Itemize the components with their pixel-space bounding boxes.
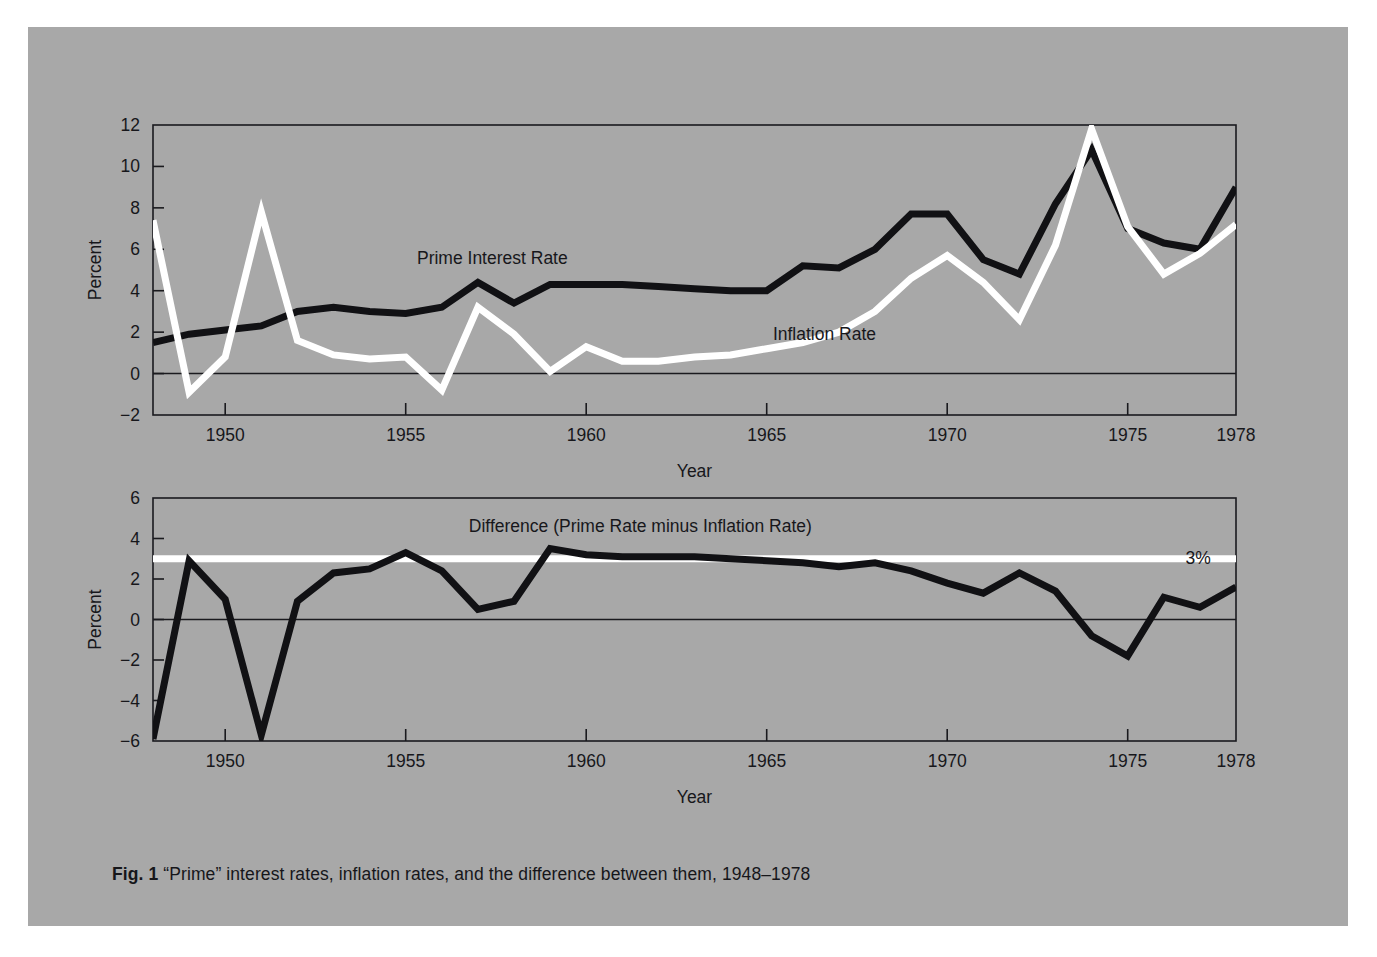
- figure-caption: Fig. 1 “Prime” interest rates, inflation…: [112, 864, 1262, 885]
- series-line-2: [153, 129, 1236, 392]
- y-axis-tick-label: 10: [121, 156, 141, 176]
- x-axis-tick-label: 1965: [747, 425, 786, 445]
- series-group: [153, 129, 1236, 392]
- top-chart-panel: −20246810121950195519601965197019751978Y…: [0, 0, 1377, 957]
- y-axis-tick-label: 4: [130, 281, 140, 301]
- y-axis-title: Percent: [85, 240, 105, 300]
- y-axis-tick-label: 6: [130, 239, 140, 259]
- x-axis-tick-label: 1955: [386, 425, 425, 445]
- y-axis-tick-label: 0: [130, 364, 140, 384]
- y-axis-tick-label: 2: [130, 322, 140, 342]
- x-axis-tick-label: 1978: [1217, 425, 1256, 445]
- y-axis-tick-label: 8: [130, 198, 140, 218]
- series-label-2: Inflation Rate: [773, 324, 876, 344]
- x-axis-title: Year: [677, 461, 713, 481]
- x-axis-tick-label: 1975: [1108, 425, 1147, 445]
- x-axis-tick-label: 1970: [928, 425, 967, 445]
- figure-root: −20246810121950195519601965197019751978Y…: [0, 0, 1377, 957]
- plot-frame: [153, 125, 1236, 415]
- series-label-1: Prime Interest Rate: [417, 248, 568, 268]
- x-axis-tick-label: 1960: [567, 425, 606, 445]
- figure-caption-text: “Prime” interest rates, inflation rates,…: [163, 864, 810, 884]
- y-axis-tick-label: −2: [120, 405, 140, 425]
- x-axis-tick-label: 1950: [206, 425, 245, 445]
- figure-caption-label: Fig. 1: [112, 864, 158, 884]
- y-axis-tick-label: 12: [121, 115, 140, 135]
